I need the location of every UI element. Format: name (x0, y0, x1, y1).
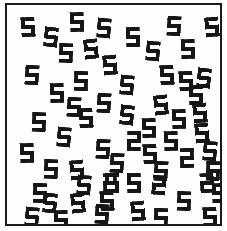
search-item-5[interactable] (43, 26, 59, 47)
search-item-5[interactable] (159, 65, 174, 86)
digit-glyph-5-icon (42, 192, 58, 213)
digit-glyph-5-icon (171, 109, 186, 130)
digit-glyph-5-icon (49, 83, 64, 104)
search-item-5[interactable] (56, 126, 72, 147)
digit-glyph-2-icon (151, 174, 167, 195)
search-item-5[interactable] (180, 39, 195, 60)
digit-glyph-5-icon (96, 93, 111, 114)
search-item-5[interactable] (95, 139, 110, 160)
search-item-5[interactable] (166, 16, 181, 37)
digit-glyph-5-icon (178, 71, 193, 92)
search-item-5[interactable] (211, 183, 222, 204)
search-item-5[interactable] (69, 12, 84, 33)
digit-glyph-5-icon (96, 17, 112, 38)
digit-glyph-5-icon (24, 206, 40, 226)
digit-glyph-5-icon (204, 16, 220, 37)
digit-glyph-5-icon (119, 104, 135, 125)
search-item-5[interactable] (49, 83, 64, 104)
digit-glyph-5-icon (192, 102, 208, 123)
search-item-5[interactable] (192, 102, 208, 123)
digit-glyph-5-icon (126, 27, 141, 47)
search-item-5[interactable] (24, 206, 40, 226)
digit-glyph-5-icon (119, 74, 135, 95)
search-item-2[interactable] (151, 174, 167, 195)
search-item-5[interactable] (145, 40, 161, 61)
digit-glyph-5-icon (83, 38, 99, 59)
search-item-5[interactable] (31, 112, 46, 133)
search-item-5[interactable] (127, 173, 142, 193)
digit-glyph-5-icon (109, 153, 124, 174)
search-item-5[interactable] (153, 94, 169, 115)
digit-glyph-5-icon (141, 118, 156, 139)
digit-glyph-5-icon (43, 26, 59, 47)
digit-glyph-5-icon (163, 131, 178, 152)
digit-glyph-5-icon (24, 65, 39, 86)
digit-glyph-5-icon (202, 207, 217, 226)
search-item-5[interactable] (202, 207, 217, 226)
search-item-5[interactable] (178, 71, 193, 92)
digit-glyph-5-icon (19, 143, 34, 164)
search-item-5[interactable] (119, 74, 135, 95)
search-item-5[interactable] (102, 54, 118, 75)
search-item-5[interactable] (24, 65, 39, 86)
search-item-5[interactable] (109, 153, 124, 174)
digit-glyph-5-icon (202, 140, 218, 161)
digit-glyph-5-icon (66, 97, 81, 118)
digit-glyph-5-icon (31, 112, 46, 133)
search-item-5[interactable] (74, 71, 89, 91)
digit-glyph-5-icon (74, 71, 89, 91)
digit-glyph-2-icon (127, 131, 142, 151)
search-item-5[interactable] (205, 161, 220, 182)
digit-glyph-5-icon (105, 173, 119, 193)
search-item-5[interactable] (43, 159, 58, 180)
digit-glyph-5-icon (69, 12, 84, 33)
digit-glyph-5-icon (94, 204, 109, 225)
stimulus-canvas (0, 0, 227, 231)
search-item-5[interactable] (130, 200, 146, 221)
digit-glyph-5-icon (145, 40, 161, 61)
search-item-5[interactable] (204, 16, 220, 37)
search-item-5[interactable] (105, 173, 119, 193)
search-item-5[interactable] (171, 109, 186, 130)
search-item-5[interactable] (202, 140, 218, 161)
search-item-5[interactable] (76, 174, 92, 195)
digit-glyph-5-icon (153, 94, 169, 115)
digit-glyph-5-icon (127, 173, 142, 193)
search-item-5[interactable] (96, 93, 111, 114)
search-item-5[interactable] (163, 131, 178, 152)
digit-glyph-5-icon (70, 192, 86, 213)
search-item-5[interactable] (96, 17, 112, 38)
digit-glyph-5-icon (159, 65, 174, 86)
digit-glyph-5-icon (58, 43, 73, 64)
digit-glyph-5-icon (76, 174, 92, 195)
search-item-5[interactable] (42, 192, 58, 213)
search-item-2[interactable] (127, 131, 142, 151)
digit-glyph-5-icon (102, 54, 118, 75)
search-item-5[interactable] (66, 97, 81, 118)
search-item-5[interactable] (141, 118, 156, 139)
search-item-5[interactable] (154, 208, 169, 226)
digit-glyph-5-icon (166, 16, 181, 37)
digit-glyph-5-icon (95, 139, 110, 160)
digit-glyph-5-icon (211, 183, 222, 204)
search-item-5[interactable] (126, 27, 141, 47)
digit-glyph-5-icon (154, 208, 169, 226)
search-item-5[interactable] (83, 38, 99, 59)
digit-glyph-5-icon (176, 191, 191, 212)
search-item-5[interactable] (119, 104, 135, 125)
digit-glyph-5-icon (43, 159, 58, 180)
search-item-5[interactable] (19, 143, 34, 164)
digit-glyph-5-icon (130, 200, 146, 221)
digit-glyph-2-icon (180, 148, 195, 168)
search-item-5[interactable] (70, 192, 86, 213)
search-item-5[interactable] (94, 204, 109, 225)
search-item-5[interactable] (20, 17, 35, 38)
digit-glyph-5-icon (180, 39, 195, 60)
search-item-5[interactable] (58, 43, 73, 64)
search-item-2[interactable] (180, 148, 195, 168)
digit-glyph-5-icon (56, 126, 72, 147)
digit-glyph-5-icon (205, 161, 220, 182)
search-array-frame (5, 3, 222, 226)
digit-glyph-5-icon (20, 17, 35, 38)
search-item-5[interactable] (176, 191, 191, 212)
